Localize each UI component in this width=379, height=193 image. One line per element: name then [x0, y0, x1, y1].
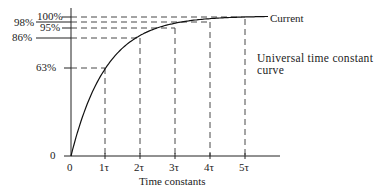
x-label-3: 3τ	[169, 161, 180, 173]
current-label: Current	[270, 12, 304, 24]
time-constant-chart: 100% 98% 95% 86% 63% 0 0 1τ 2τ 3τ 4τ 5τ …	[0, 0, 379, 193]
x-label-1: 1τ	[99, 161, 110, 173]
y-label-63: 63%	[36, 61, 56, 73]
x-label-0: 0	[67, 161, 73, 173]
x-label-2: 2τ	[134, 161, 145, 173]
x-axis-title: Time constants	[139, 175, 206, 187]
y-label-95: 95%	[40, 21, 60, 33]
x-label-4: 4τ	[204, 161, 215, 173]
y-label-0: 0	[50, 149, 56, 161]
y-label-98: 98%	[14, 16, 34, 28]
y-label-86: 86%	[12, 31, 32, 43]
x-label-5: 5τ	[239, 161, 250, 173]
current-curve	[71, 17, 268, 157]
note-line-2: curve	[257, 64, 284, 76]
note-line-1: Universal time constant	[257, 52, 374, 64]
